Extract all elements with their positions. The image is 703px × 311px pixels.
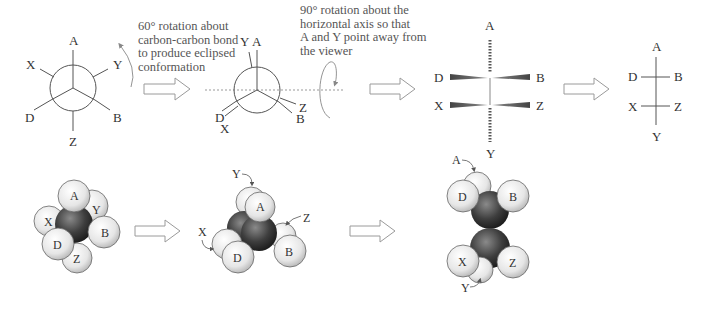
label-D: D (458, 190, 467, 204)
label-Z: Z (674, 99, 682, 114)
caption-rotation-90: 90° rotation about the horizontal axis s… (300, 4, 426, 58)
label-A: A (485, 18, 495, 33)
label-D: D (25, 110, 34, 125)
label-Y: Y (486, 146, 496, 161)
label-B: B (296, 111, 305, 126)
label-Y: Y (240, 34, 250, 49)
spacefill-model-staggered: A Y X B D Z (34, 180, 120, 273)
label-Z: Z (73, 252, 80, 266)
label-A: A (70, 189, 79, 203)
label-Y: Y (92, 203, 101, 217)
spacefill-model-vertical: D B X Z A Y (447, 153, 529, 295)
label-D: D (434, 70, 443, 85)
label-A: A (69, 33, 79, 48)
label-Z: Z (509, 256, 516, 270)
label-X: X (628, 99, 638, 114)
label-B: B (113, 110, 122, 125)
label-Z: Z (69, 134, 77, 149)
label-D: D (233, 251, 242, 265)
label-X: X (198, 225, 207, 239)
caption-line: horizontal axis so that (300, 18, 426, 32)
label-X: X (44, 215, 53, 229)
label-X: X (458, 255, 467, 269)
label-A: A (256, 200, 265, 214)
caption-line: carbon-carbon bond (138, 34, 238, 48)
label-B: B (101, 226, 109, 240)
label-Y: Y (652, 129, 662, 144)
newman-projection-staggered: A X Y D B Z (25, 33, 123, 149)
label-Y: Y (113, 57, 123, 72)
label-A: A (652, 39, 662, 54)
label-B: B (285, 245, 293, 259)
transform-arrow-icon (564, 78, 609, 100)
caption-line: 60° rotation about (138, 20, 238, 34)
label-B: B (674, 69, 683, 84)
label-D: D (53, 238, 62, 252)
caption-line: A and Y point away from (300, 31, 426, 45)
label-B: B (536, 70, 545, 85)
label-Z: Z (303, 211, 310, 225)
label-Y: Y (232, 167, 241, 181)
transform-arrow-icon (144, 78, 190, 100)
label-Z: Z (536, 98, 544, 113)
caption-line: 90° rotation about the (300, 4, 426, 18)
fischer-projection: A D B X Z Y (628, 39, 683, 144)
label-X: X (434, 98, 444, 113)
wedge-dash-projection: A D B X Z Y (434, 18, 545, 161)
transform-arrow-icon (135, 220, 180, 242)
label-B: B (509, 190, 517, 204)
label-A: A (252, 34, 262, 49)
spacefill-model-eclipsed: A D B Y Z X (198, 167, 310, 273)
caption-line: the viewer (300, 45, 426, 59)
label-A: A (452, 153, 461, 167)
caption-line: to produce eclipsed (138, 47, 238, 61)
transform-arrow-icon (350, 220, 395, 242)
label-Y: Y (461, 281, 470, 295)
caption-line: conformation (138, 61, 238, 75)
label-D: D (628, 69, 637, 84)
transform-arrow-icon (370, 78, 415, 100)
label-X: X (220, 121, 230, 136)
label-X: X (26, 57, 36, 72)
caption-rotation-60: 60° rotation about carbon-carbon bond to… (138, 20, 238, 74)
